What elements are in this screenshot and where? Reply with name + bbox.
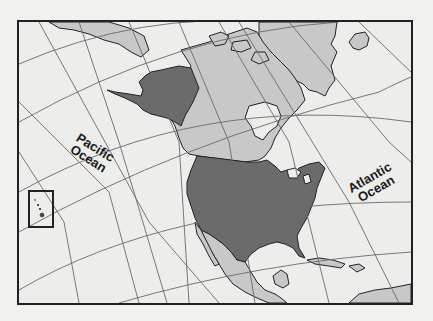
hawaii-island [39,208,41,210]
hawaii-big-island [40,213,44,217]
page: Pacific Ocean Atlantic Ocean [0,0,433,321]
hawaii-island [34,199,36,201]
hawaii-island [37,204,39,206]
map-frame: Pacific Ocean Atlantic Ocean [17,20,413,305]
north-america-map [19,22,411,303]
